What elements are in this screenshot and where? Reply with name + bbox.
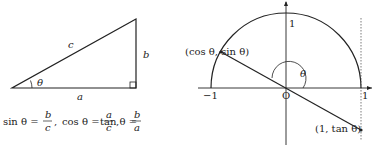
origin-label: O xyxy=(282,90,290,101)
right-triangle xyxy=(12,19,136,88)
sin-lhs: sin θ = xyxy=(3,116,39,127)
trig-diagram: c b a θ sin θ = b c , cos θ = a c , tan … xyxy=(0,0,372,145)
circle-theta-label: θ xyxy=(300,68,306,79)
tan-den: a xyxy=(134,122,140,133)
tick-pos-one: 1 xyxy=(362,90,368,101)
angle-theta-label: θ xyxy=(37,77,43,88)
right-angle-marker xyxy=(130,82,136,88)
y-axis-arrow-icon xyxy=(284,1,288,6)
angle-arc xyxy=(31,81,33,89)
tan-num: b xyxy=(134,109,140,120)
cos-lhs: cos θ = xyxy=(62,116,100,127)
radius-line xyxy=(221,52,361,130)
point-cos-sin-label: (cos θ, sin θ) xyxy=(185,46,249,57)
side-a-label: a xyxy=(77,91,83,102)
sin-den: c xyxy=(45,122,51,133)
side-b-label: b xyxy=(143,49,149,60)
svg-text:,: , xyxy=(54,116,57,127)
point-tan-label: (1, tan θ) xyxy=(315,123,361,134)
tan-lhs: tan θ = xyxy=(100,116,137,127)
tick-neg-one: −1 xyxy=(203,90,218,101)
sin-num: b xyxy=(45,109,51,120)
tick-top-one: 1 xyxy=(289,18,295,29)
side-c-label: c xyxy=(68,39,74,50)
